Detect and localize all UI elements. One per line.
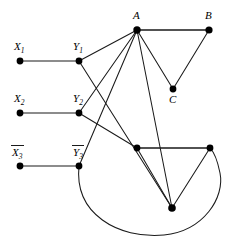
edge-e-f — [172, 148, 210, 208]
graph-canvas: X1 X2 X3 Y1 Y2 Y3 A B C — [0, 0, 226, 244]
label-x1: X1 — [13, 40, 24, 55]
edge-y3-a — [79, 30, 137, 166]
edge-y1-a — [79, 30, 137, 61]
node-x3-bar[interactable] — [17, 163, 24, 170]
label-x2: X2 — [13, 92, 25, 107]
edges-group — [20, 30, 221, 235]
label-y3-bar: Y3 — [73, 146, 83, 161]
node-e[interactable] — [207, 145, 214, 152]
node-x1[interactable] — [17, 58, 24, 65]
node-y2[interactable] — [76, 110, 83, 117]
node-f[interactable] — [168, 204, 176, 212]
node-y1[interactable] — [76, 58, 83, 65]
label-c: C — [169, 93, 177, 105]
nodes-group — [17, 26, 214, 212]
node-c[interactable] — [170, 86, 177, 93]
label-y1: Y1 — [73, 40, 83, 55]
labels-group: X1 X2 X3 Y1 Y2 Y3 A B C — [11, 9, 212, 161]
edge-d-f — [137, 148, 172, 208]
edge-y2-d — [79, 113, 137, 148]
node-d[interactable] — [134, 145, 141, 152]
label-y2: Y2 — [73, 92, 83, 107]
edge-b-c — [173, 30, 209, 89]
graph-figure: X1 X2 X3 Y1 Y2 Y3 A B C — [0, 0, 226, 244]
edge-y2-a — [79, 30, 137, 113]
edge-y3-e-curve — [79, 148, 221, 235]
node-b[interactable] — [205, 26, 212, 33]
label-a: A — [132, 9, 140, 21]
label-x3-bar: X3 — [11, 146, 23, 161]
node-y3-bar[interactable] — [76, 163, 83, 170]
node-a[interactable] — [133, 26, 140, 33]
node-x2[interactable] — [17, 110, 24, 117]
label-b: B — [205, 9, 212, 21]
